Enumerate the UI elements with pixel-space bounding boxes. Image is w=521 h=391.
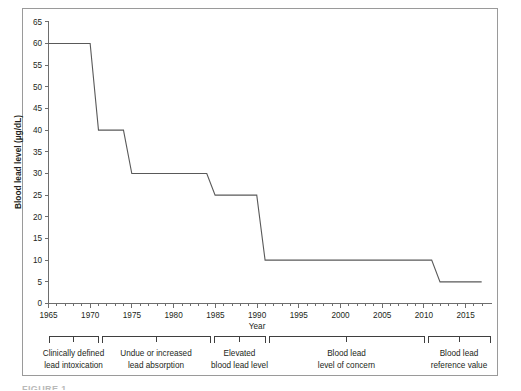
x-tick-label: 1980: [164, 311, 183, 320]
y-tick-label: 5: [37, 278, 42, 287]
blood-lead-level-line-chart: 0 5 10 15 20 25 30 35 40 45 50 55: [0, 0, 521, 391]
x-tick-label: 1990: [248, 311, 267, 320]
bracket-label-line1: Clinically defined: [43, 349, 105, 358]
bracket-label-line2: level of concern: [318, 361, 376, 370]
series-line-blood-lead-threshold: [49, 43, 482, 281]
y-tick-label: 55: [33, 61, 43, 70]
bracket-label-line1: Elevated: [224, 349, 256, 358]
bracket-label-line2: blood lead level: [211, 361, 268, 370]
bracket-label-line2: lead absorption: [128, 361, 184, 370]
bracket-label-line2: reference value: [431, 361, 488, 370]
x-tick-label: 1985: [206, 311, 225, 320]
x-tick-label: 1995: [290, 311, 309, 320]
x-tick-label: 2010: [415, 311, 434, 320]
y-tick-label: 10: [33, 256, 43, 265]
bracket-label-line1: Blood lead: [440, 349, 479, 358]
x-axis-ticks: 1965 1970 1975 1980 1985 1990 1995 2000 …: [39, 304, 475, 320]
y-axis-title: Blood lead level (µg/dL): [13, 115, 23, 209]
figure-container: 0 5 10 15 20 25 30 35 40 45 50 55: [0, 0, 521, 391]
y-tick-label: 65: [33, 18, 43, 27]
x-tick-label: 2015: [456, 311, 475, 320]
axes-group: [49, 22, 493, 304]
bracket-label-line2: lead intoxication: [44, 361, 103, 370]
bracket-label-line1: Undue or increased: [120, 349, 192, 358]
y-tick-label: 0: [37, 299, 42, 308]
y-axis-ticks: 0 5 10 15 20 25 30 35 40 45 50 55: [33, 18, 49, 309]
y-tick-label: 20: [33, 213, 43, 222]
x-tick-label: 1965: [39, 311, 58, 320]
y-tick-label: 40: [33, 126, 43, 135]
y-tick-label: 25: [33, 191, 43, 200]
bracket-label-line1: Blood lead: [327, 349, 366, 358]
y-tick-label: 35: [33, 148, 43, 157]
y-tick-label: 50: [33, 83, 43, 92]
x-tick-label: 2005: [373, 311, 392, 320]
annotation-brackets: Clinically defined lead intoxication Und…: [43, 337, 490, 371]
y-tick-label: 60: [33, 39, 43, 48]
x-tick-label: 1970: [81, 311, 100, 320]
x-tick-label: 2000: [331, 311, 350, 320]
y-tick-label: 45: [33, 104, 43, 113]
figure-caption-cutoff: FIGURE 1: [22, 381, 67, 390]
y-tick-label: 15: [33, 234, 43, 243]
x-axis-title: Year: [249, 322, 266, 331]
y-tick-label: 30: [33, 169, 43, 178]
x-tick-label: 1975: [123, 311, 142, 320]
